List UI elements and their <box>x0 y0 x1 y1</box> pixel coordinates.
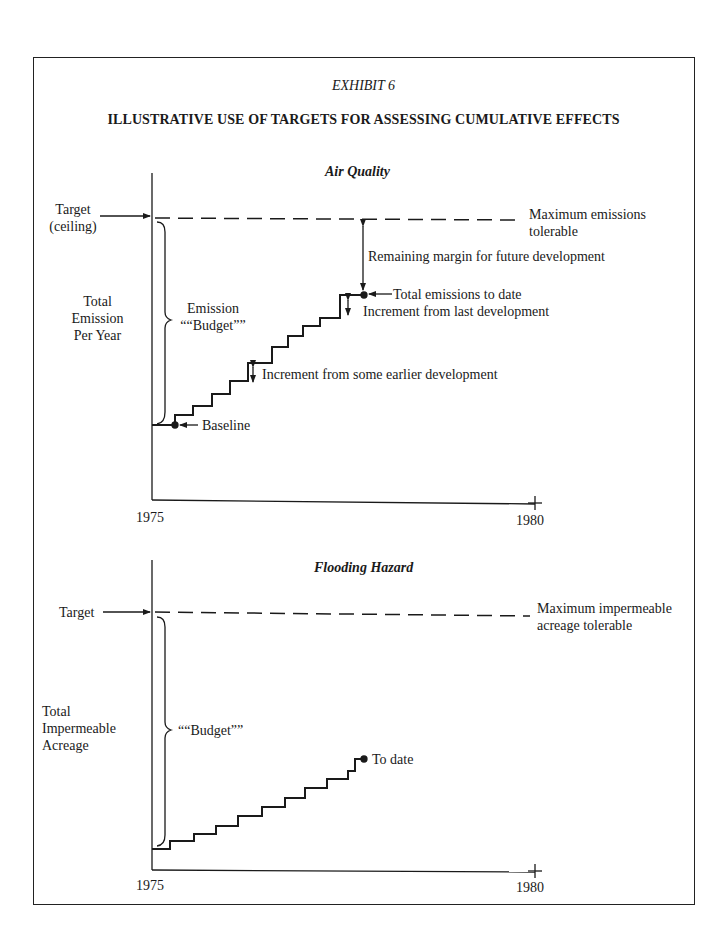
aq-target-sublabel: (ceiling) <box>38 218 108 235</box>
fh-max-label-2: acreage tolerable <box>537 617 632 634</box>
aq-target-label: Target <box>38 201 108 218</box>
exhibit-title: ILLUSTRATIVE USE OF TARGETS FOR ASSESSIN… <box>0 111 727 128</box>
fh-x-end: 1980 <box>516 879 544 896</box>
aq-margin-label: Remaining margin for future development <box>368 248 605 265</box>
fh-budget-label: ““Budget”” <box>178 722 243 739</box>
aq-baseline-label: Baseline <box>202 417 250 434</box>
aq-budget-label-2: ““Budget”” <box>178 317 248 334</box>
fh-ylabel-1: Total <box>42 703 71 720</box>
aq-ylabel-2: Emission <box>55 310 140 327</box>
fh-max-label-1: Maximum impermeable <box>537 600 672 617</box>
aq-ylabel-1: Total <box>55 293 140 310</box>
aq-earlier-increment-label: Increment from some earlier development <box>262 366 498 383</box>
fh-to-date-label: To date <box>372 751 413 768</box>
aq-x-axis <box>152 500 535 504</box>
aq-max-label-1: Maximum emissions <box>529 206 646 223</box>
exhibit-label: EXHIBIT 6 <box>0 77 727 94</box>
aq-x-end: 1980 <box>516 512 544 529</box>
fh-title: Flooding Hazard <box>314 559 413 576</box>
fh-ylabel-2: Impermeable <box>42 720 116 737</box>
aq-last-increment-label: Increment from last development <box>363 303 549 320</box>
fh-ylabel-3: Acreage <box>42 737 89 754</box>
fh-x-start: 1975 <box>136 877 164 894</box>
aq-ylabel-3: Per Year <box>55 327 140 344</box>
diagram-graphics <box>0 0 727 928</box>
aq-max-label-2: tolerable <box>529 223 578 240</box>
aq-x-start: 1975 <box>136 509 164 526</box>
aq-total-label: Total emissions to date <box>393 286 522 303</box>
fh-x-axis <box>152 870 535 872</box>
fh-target-label: Target <box>59 604 94 621</box>
aq-budget-label-1: Emission <box>178 300 248 317</box>
aq-title: Air Quality <box>325 163 390 180</box>
